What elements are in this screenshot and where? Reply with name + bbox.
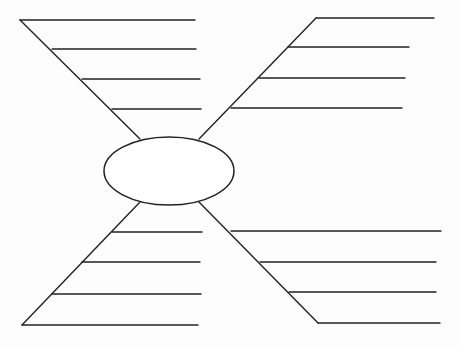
- branch-top-right: [199, 18, 434, 139]
- spider-map-diagram: [0, 0, 462, 346]
- branch-leg: [22, 202, 140, 325]
- branch-bottom-right: [199, 202, 441, 323]
- center-oval: [104, 137, 234, 205]
- branch-top-left: [20, 20, 201, 139]
- spider-map-svg: [0, 0, 462, 346]
- branch-bottom-left: [22, 202, 202, 325]
